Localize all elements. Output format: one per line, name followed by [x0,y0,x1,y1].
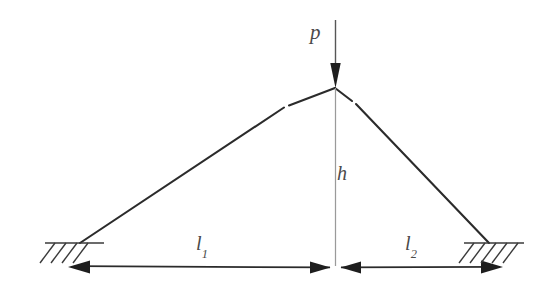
right-dimension-group [341,261,504,274]
left-dimension-arrowhead-outer-icon [68,261,90,274]
cable-structure-diagram: p h l1 l2 [0,0,550,291]
left-cable-group [80,88,335,243]
right-span-label: l2 [405,233,417,257]
right-dimension-arrowhead-inner-icon [341,261,362,273]
left-support-hatch [40,243,104,263]
left-span-label-subscript: 1 [202,247,208,261]
height-label: h [337,163,347,183]
right-cable-group [335,88,489,243]
left-cable-lower-segment [80,108,284,244]
load-label: p [310,22,321,43]
right-cable-lower-segment [356,104,489,243]
right-span-label-base: l [405,232,411,254]
right-dimension-shaft [341,267,500,268]
load-arrowhead-icon [330,63,340,88]
left-dimension-group [68,261,331,274]
left-dimension-arrowhead-inner-icon [310,261,331,273]
right-cable-upper-segment [335,88,352,101]
load-arrow-group [330,20,340,88]
left-dimension-shaft [78,266,330,267]
left-span-label-base: l [196,232,202,254]
right-span-label-subscript: 2 [411,247,417,261]
right-support-hatch [459,243,524,263]
diagram-canvas [0,0,550,291]
left-cable-upper-segment [289,88,335,106]
left-span-label: l1 [196,233,208,257]
